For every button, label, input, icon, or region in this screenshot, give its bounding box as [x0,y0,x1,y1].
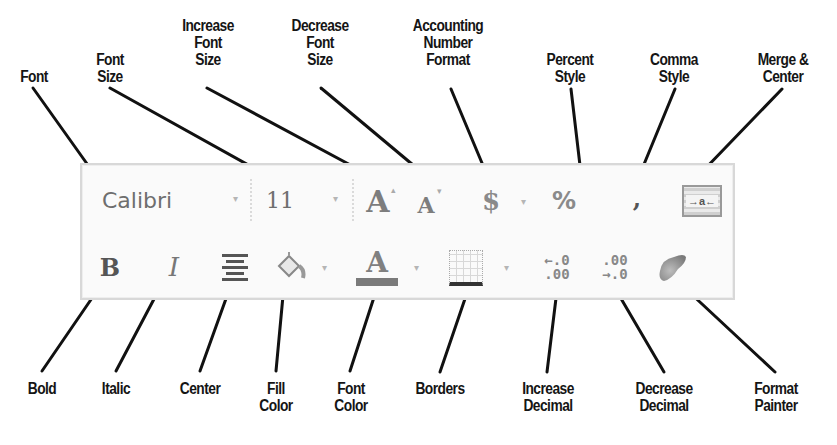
increase-font-size-icon: A [366,184,389,219]
font-color-dropdown-arrow[interactable]: ▾ [408,257,424,277]
label-fill-color: Fill Color [254,380,299,414]
leader-borders [440,290,468,372]
accounting-number-format-button[interactable]: $ [474,179,508,223]
increase-decimal-icon-bottom: .00 [544,267,569,281]
label-decrease-decimal: Decrease Decimal [626,380,702,414]
borders-dropdown-arrow[interactable]: ▾ [498,257,514,277]
borders-button[interactable] [446,247,486,289]
italic-icon: I [169,252,179,282]
increase-font-size-button[interactable]: A ▴ [356,179,400,223]
font-color-button[interactable]: A [354,245,400,289]
font-color-icon: A [366,248,388,278]
chevron-down-icon: ▾ [414,262,419,273]
leader-increase-font-size [207,88,369,175]
format-painter-button[interactable] [648,245,696,289]
label-increase-decimal: Increase Decimal [514,380,583,414]
label-percent-style: Percent Style [537,51,602,85]
paintbrush-icon [652,247,692,287]
leader-merge-center [701,89,782,173]
italic-button[interactable]: I [156,247,192,287]
label-format-painter: Format Painter [745,380,807,414]
decrease-decimal-icon-top: .00 [602,253,627,267]
merge-center-icon: →a← [682,185,722,217]
label-borders: Borders [406,380,475,397]
label-decrease-font-size: Decrease Font Size [284,17,356,68]
leader-font [33,88,95,175]
comma-style-button[interactable]: , [624,179,650,223]
paint-bucket-icon [273,250,307,284]
label-bold: Bold [20,380,65,397]
fill-color-dropdown-arrow[interactable]: ▾ [316,257,332,277]
leader-percent [571,89,581,174]
percent-icon: % [552,187,576,215]
label-font-color: Font Color [328,380,374,414]
label-center: Center [171,380,229,397]
leader-format-painter [687,290,775,372]
font-size-dropdown[interactable]: 11 ▾ [254,179,354,221]
label-font: Font [12,68,57,85]
label-merge-center: Merge & Center [748,51,819,85]
font-name-value: Calibri [102,188,172,213]
bold-button[interactable]: B [92,247,128,287]
formatting-toolbar: Calibri ▾ 11 ▾ A ▴ A ▾ $ ▾ % , →a← B I [80,163,735,300]
label-italic: Italic [94,380,139,397]
accounting-dropdown-arrow[interactable]: ▾ [512,191,534,211]
chevron-down-icon: ▾ [322,262,327,273]
label-increase-font-size: Increase Font Size [174,17,243,68]
percent-style-button[interactable]: % [542,179,586,223]
chevron-down-icon: ▾ [333,193,338,204]
chevron-down-icon: ▾ [504,262,509,273]
decrease-font-size-button[interactable]: A ▾ [406,181,446,221]
chevron-down-icon: ▾ [521,196,526,207]
comma-icon: , [633,184,641,213]
bold-icon: B [100,253,120,282]
chevron-down-icon: ▾ [233,193,238,204]
down-caret-icon: ▾ [437,186,442,196]
borders-icon [449,250,483,286]
fill-color-button[interactable] [270,247,310,287]
leader-decrease-decimal [616,290,664,372]
center-align-icon [222,254,248,281]
increase-decimal-icon-top: ←.0 [544,253,569,267]
font-name-dropdown[interactable]: Calibri ▾ [92,179,252,221]
decrease-decimal-button[interactable]: .00 →.0 [592,245,638,289]
center-align-button[interactable] [218,249,252,285]
font-color-swatch [356,278,398,286]
label-accounting-number-format: Accounting Number Format [403,17,492,68]
increase-decimal-button[interactable]: ←.0 .00 [534,245,580,289]
decrease-font-size-icon: A [417,192,434,218]
decrease-decimal-icon-bottom: →.0 [602,267,627,281]
leader-increase-decimal [547,290,557,372]
leader-comma [640,89,675,174]
label-font-size: Font Size [86,51,134,85]
label-comma-style: Comma Style [641,51,706,85]
font-size-value: 11 [266,188,294,213]
up-caret-icon: ▴ [391,185,396,195]
leader-decrease-font-size [321,88,425,175]
dollar-icon: $ [482,186,500,216]
merge-center-button[interactable]: →a← [680,183,724,219]
